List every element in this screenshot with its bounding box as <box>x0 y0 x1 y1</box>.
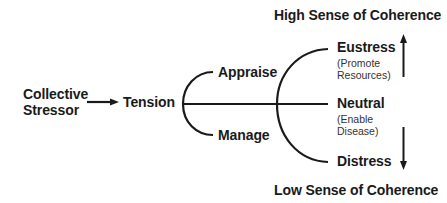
collective-stressor-line1: Collective <box>23 86 88 102</box>
node-appraise: Appraise <box>218 65 277 79</box>
eustress-distress-bracket <box>277 49 328 162</box>
node-collective-stressor: Collective Stressor <box>23 86 88 118</box>
stressor-to-tension-arrow <box>87 99 119 106</box>
node-distress: Distress <box>337 154 391 168</box>
arrow-down-icon <box>400 127 407 170</box>
node-tension: Tension <box>123 95 175 109</box>
header-low-coherence: Low Sense of Coherence <box>274 183 438 197</box>
node-eustress: Eustress (Promote Resources) <box>337 40 395 81</box>
eustress-label: Eustress <box>337 40 395 54</box>
node-neutral: Neutral (Enable Disease) <box>337 96 385 137</box>
node-manage: Manage <box>218 128 270 142</box>
neutral-sub1: (Enable <box>337 113 385 125</box>
header-high-coherence: High Sense of Coherence <box>274 8 441 22</box>
neutral-label: Neutral <box>337 96 385 110</box>
eustress-sub1: (Promote <box>337 57 395 69</box>
neutral-sub2: Disease) <box>337 125 385 137</box>
collective-stressor-line2: Stressor <box>23 102 88 118</box>
arrow-up-icon <box>400 34 407 77</box>
eustress-sub2: Resources) <box>337 69 395 81</box>
